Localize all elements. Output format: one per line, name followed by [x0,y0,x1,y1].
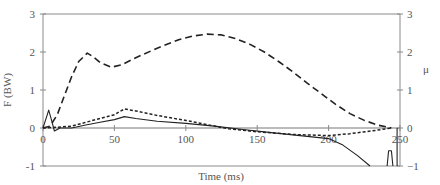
y-tick-label: 1 [30,84,36,96]
plot-frame [43,14,400,166]
data-series [43,34,397,166]
y2-tick-label: 2 [407,46,413,58]
force-friction-chart: -10123−10123050100150200250 Time (ms) F … [0,0,440,185]
series-dotted-line [43,109,391,136]
y-tick-label: 3 [30,8,36,20]
y-axis-title: F (BW) [1,73,14,107]
x-tick-label: 100 [178,133,195,145]
y-tick-label: 0 [30,122,36,134]
y-tick-label: -1 [26,160,35,172]
series-dashed-line [43,34,391,128]
x-tick-label: 50 [109,133,121,145]
series-solid-line [387,151,393,166]
y2-tick-label: 1 [407,84,413,96]
series-solid-line [43,110,370,166]
x-tick-label: 0 [40,133,46,145]
y2-axis-title: μ [423,63,429,75]
x-tick-label: 250 [392,133,409,145]
y2-tick-label: −1 [407,160,419,172]
y-tick-label: 2 [30,46,36,58]
y2-tick-label: 3 [407,8,413,20]
axis-ticks: -10123−10123050100150200250 [26,8,419,172]
x-axis-title: Time (ms) [198,170,244,183]
x-tick-label: 150 [249,133,266,145]
